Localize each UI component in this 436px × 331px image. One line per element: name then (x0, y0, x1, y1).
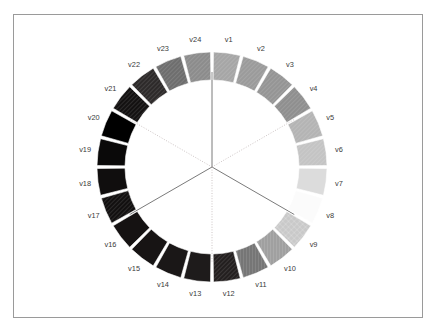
segment-label-v15: v15 (128, 264, 140, 273)
ring-segment-v18[interactable] (97, 168, 128, 195)
segment-label-v7: v7 (335, 179, 343, 188)
ring-segment-v13[interactable] (184, 251, 211, 282)
segment-label-v4: v4 (310, 84, 318, 93)
segment-label-v3: v3 (286, 60, 294, 69)
segment-label-v23: v23 (157, 44, 169, 53)
segment-label-v12: v12 (223, 289, 235, 298)
segment-label-v14: v14 (157, 280, 169, 289)
segment-label-v22: v22 (128, 60, 140, 69)
spoke-lower-left (130, 167, 212, 215)
segment-label-v8: v8 (326, 211, 334, 220)
ring-segment-texture-v6 (296, 139, 327, 166)
ring-segment-v19[interactable] (97, 139, 128, 166)
segment-label-v18: v18 (79, 179, 91, 188)
spoke-lower-right (212, 167, 294, 215)
segment-label-v11: v11 (255, 280, 266, 289)
ring-segment-v7[interactable] (296, 168, 327, 195)
segment-label-v13: v13 (189, 289, 201, 298)
figure-root: v1v2v3v4v5v6v7v8v9v10v11v12v13v14v15v16v… (0, 0, 436, 331)
segment-label-v6: v6 (335, 145, 343, 154)
segment-label-v9: v9 (310, 240, 318, 249)
spoke-upper-left (130, 120, 212, 168)
segment-label-v21: v21 (104, 84, 116, 93)
segment-label-v5: v5 (326, 113, 334, 122)
segment-label-v20: v20 (88, 113, 100, 122)
segment-label-v16: v16 (104, 240, 116, 249)
spoke-upper-right (212, 120, 294, 168)
segment-label-v17: v17 (88, 211, 100, 220)
ring-segment-texture-v12 (213, 251, 240, 282)
segment-label-v10: v10 (284, 264, 296, 273)
ring-chart-svg: v1v2v3v4v5v6v7v8v9v10v11v12v13v14v15v16v… (0, 0, 436, 331)
ring-segment-texture-v24 (184, 52, 211, 83)
segment-label-v19: v19 (79, 145, 91, 154)
segment-label-v2: v2 (257, 44, 265, 53)
segment-label-v1: v1 (225, 35, 233, 44)
ring-segment-texture-v1 (213, 52, 240, 83)
segment-label-v24: v24 (189, 35, 201, 44)
